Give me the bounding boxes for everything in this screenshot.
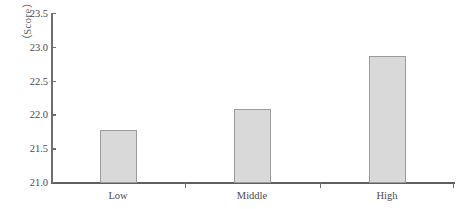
x-axis-label-low: Low bbox=[73, 190, 163, 201]
bar-chart: （Score） 23.5 23.0 22.5 22.0 21.5 21.0 Lo… bbox=[0, 0, 463, 209]
y-tick-label-23-5: 23.5 bbox=[8, 8, 48, 19]
y-tick-label-23-0: 23.0 bbox=[8, 42, 48, 53]
y-tick-23-0 bbox=[51, 47, 56, 48]
x-tick-2 bbox=[320, 183, 321, 188]
y-tick-22-0 bbox=[51, 114, 56, 115]
y-tick-21-0 bbox=[51, 182, 56, 183]
y-tick-21-5 bbox=[51, 148, 56, 149]
y-tick-label-22-0: 22.0 bbox=[8, 109, 48, 120]
bar-low bbox=[100, 130, 137, 183]
y-tick-23-5 bbox=[51, 13, 56, 14]
y-tick-label-22-5: 22.5 bbox=[8, 76, 48, 87]
y-tick-22-5 bbox=[51, 81, 56, 82]
y-tick-label-21-0: 21.0 bbox=[8, 177, 48, 188]
x-axis-label-middle: Middle bbox=[207, 190, 297, 201]
bar-middle bbox=[234, 109, 271, 183]
x-tick-3 bbox=[453, 183, 454, 188]
y-tick-label-21-5: 21.5 bbox=[8, 143, 48, 154]
x-axis-label-high: High bbox=[342, 190, 432, 201]
y-axis-line bbox=[51, 13, 53, 184]
bar-high bbox=[369, 56, 406, 183]
x-tick-1 bbox=[185, 183, 186, 188]
